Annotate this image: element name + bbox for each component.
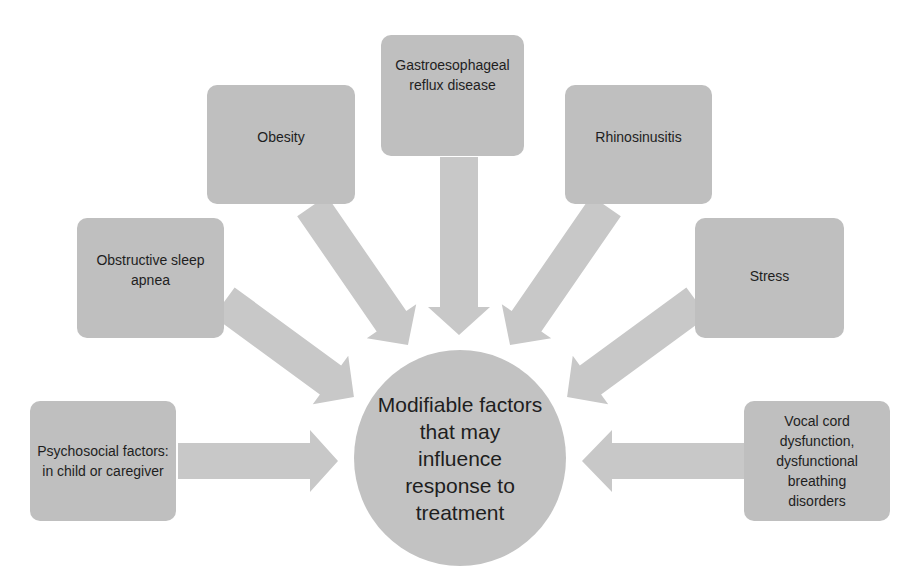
center-hub-label: Modifiable factors that may influence re… <box>375 391 545 526</box>
factor-rhinosinusitis-label: Rhinosinusitis <box>595 127 681 147</box>
factor-gerd-label: Gastroesophageal reflux disease <box>387 55 518 95</box>
factor-osa-box: Obstructive sleep apnea <box>77 218 224 338</box>
factor-stress-box: Stress <box>695 218 844 338</box>
arrow-gerd <box>428 157 490 335</box>
factor-gerd-box: Gastroesophageal reflux disease <box>381 35 524 156</box>
arrow-psychosocial <box>178 430 338 492</box>
factor-psychosocial-label: Psychosocial factors: in child or caregi… <box>37 441 169 481</box>
factor-vocal-cord-box: Vocal cord dysfunction, dysfunctional br… <box>744 401 890 521</box>
factor-obesity-box: Obesity <box>207 85 355 204</box>
factor-stress-label: Stress <box>750 266 790 286</box>
arrow-obesity <box>287 189 432 362</box>
factor-psychosocial-box: Psychosocial factors: in child or caregi… <box>30 401 176 521</box>
arrow-vocal-cord <box>582 430 744 492</box>
center-hub-circle: Modifiable factors that may influence re… <box>354 350 566 566</box>
factor-obesity-label: Obesity <box>257 127 304 147</box>
factor-osa-label: Obstructive sleep apnea <box>86 250 216 290</box>
arrow-stress <box>549 278 714 422</box>
arrow-osa <box>206 278 371 422</box>
factor-rhinosinusitis-box: Rhinosinusitis <box>565 85 712 204</box>
factor-vocal-cord-label: Vocal cord dysfunction, dysfunctional br… <box>762 411 872 511</box>
arrow-rhinosinusitis <box>485 189 630 362</box>
